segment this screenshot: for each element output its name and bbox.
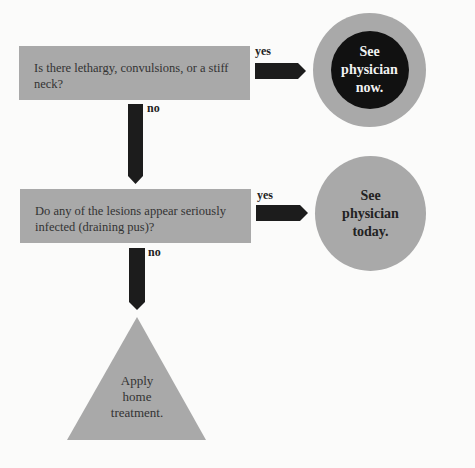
question-box-2: Do any of the lesions appear seriously i… xyxy=(20,189,251,243)
urgent-outer-circle: See physician now. xyxy=(313,13,426,127)
question-box-1: Is there lethargy, convulsions, or a sti… xyxy=(19,46,250,100)
yes-label-1: yes xyxy=(255,44,271,59)
no-arrow-1 xyxy=(128,104,143,184)
today-line-2: physician xyxy=(342,205,399,223)
question-text-1: Is there lethargy, convulsions, or a sti… xyxy=(34,61,229,91)
home-treatment-text: Apply home treatment. xyxy=(97,373,177,421)
urgent-line-2: physician xyxy=(341,61,398,79)
no-label-2: no xyxy=(148,245,161,260)
home-line-1: Apply xyxy=(97,373,177,389)
urgent-inner-circle: See physician now. xyxy=(331,31,409,109)
no-arrow-2 xyxy=(129,248,145,310)
yes-label-2: yes xyxy=(257,188,273,203)
question-text-2: Do any of the lesions appear seriously i… xyxy=(35,204,226,234)
urgent-line-1: See xyxy=(359,43,379,61)
yes-arrow-2 xyxy=(256,205,308,221)
home-line-3: treatment. xyxy=(97,405,177,421)
no-label-1: no xyxy=(147,101,160,116)
home-line-2: home xyxy=(97,389,177,405)
today-line-1: See xyxy=(360,187,380,205)
urgent-line-3: now. xyxy=(356,79,384,97)
today-line-3: today. xyxy=(352,223,388,241)
yes-arrow-1 xyxy=(255,63,306,79)
today-circle: See physician today. xyxy=(315,156,426,271)
